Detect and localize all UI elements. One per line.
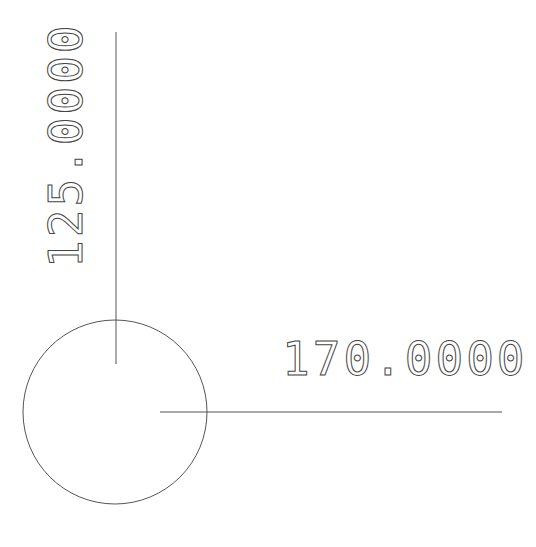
vertical-dimension-label: 125.0000: [39, 22, 93, 268]
cad-drawing: 125.0000 170.0000: [0, 0, 536, 547]
horizontal-dimension-label: 170.0000: [282, 332, 528, 386]
